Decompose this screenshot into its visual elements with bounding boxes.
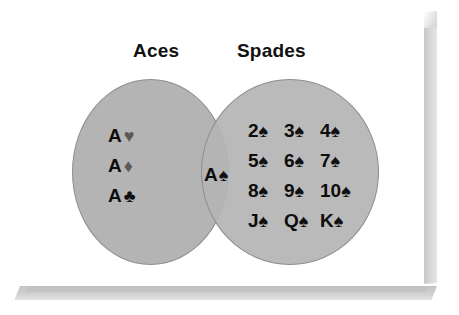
card-rank: 4	[320, 120, 331, 141]
card-A-spade-suit-icon: A♠	[204, 163, 228, 187]
card-3-spade-suit-icon: 3♠	[284, 116, 320, 146]
spade-suit-icon: ♠	[259, 147, 269, 176]
card-4-spade-suit-icon: 4♠	[320, 116, 356, 146]
card-rank: 6	[284, 150, 295, 171]
card-rank: 9	[284, 180, 295, 201]
card-J-spade-suit-icon: J♠	[248, 206, 284, 236]
card-rank: A	[204, 164, 218, 185]
region-aces-only: A♥A♦A♣	[108, 121, 136, 211]
card-6-spade-suit-icon: 6♠	[284, 146, 320, 176]
card-rank: 5	[248, 150, 259, 171]
region-spades-only: 2♠3♠4♠5♠6♠7♠8♠9♠10♠J♠Q♠K♠	[248, 116, 356, 236]
diamond-suit-icon: ♦	[124, 151, 133, 181]
venn-diagram-figure: Aces Spades A♥A♦A♣ A♠ 2♠3♠4♠5♠6♠7♠8♠9♠10…	[0, 0, 459, 315]
card-rank: 3	[284, 120, 295, 141]
card-rank: J	[248, 210, 259, 231]
card-5-spade-suit-icon: 5♠	[248, 146, 284, 176]
card-2-spade-suit-icon: 2♠	[248, 116, 284, 146]
card-K-spade-suit-icon: K♠	[320, 206, 356, 236]
card-10-spade-suit-icon: 10♠	[320, 176, 356, 206]
card-rank: K	[320, 210, 334, 231]
card-rank: A	[108, 185, 122, 206]
spade-suit-icon: ♠	[259, 177, 269, 206]
spade-suit-icon: ♠	[331, 117, 341, 146]
card-row: 2♠3♠4♠	[248, 116, 356, 146]
card-row: 5♠6♠7♠	[248, 146, 356, 176]
heart-suit-icon: ♥	[124, 121, 135, 151]
card-rank: 2	[248, 120, 259, 141]
spade-suit-icon: ♠	[295, 147, 305, 176]
card-row: A♥	[108, 121, 136, 151]
card-row: J♠Q♠K♠	[248, 206, 356, 236]
card-row: A♠	[204, 163, 228, 187]
card-rank: Q	[284, 210, 299, 231]
club-suit-icon: ♣	[124, 181, 136, 211]
card-rank: A	[108, 155, 122, 176]
spade-suit-icon: ♠	[295, 177, 305, 206]
card-A-diamond-suit-icon: A♦	[108, 151, 133, 181]
spade-suit-icon: ♠	[341, 177, 351, 206]
card-8-spade-suit-icon: 8♠	[248, 176, 284, 206]
spade-suit-icon: ♠	[295, 117, 305, 146]
spade-suit-icon: ♠	[219, 163, 229, 187]
card-Q-spade-suit-icon: Q♠	[284, 206, 320, 236]
card-row: A♦	[108, 151, 136, 181]
card-row: 8♠9♠10♠	[248, 176, 356, 206]
card-7-spade-suit-icon: 7♠	[320, 146, 356, 176]
spade-suit-icon: ♠	[259, 117, 269, 146]
venn-circles	[0, 0, 459, 315]
card-A-heart-suit-icon: A♥	[108, 121, 134, 151]
card-rank: 10	[320, 180, 341, 201]
card-rank: 7	[320, 150, 331, 171]
card-rank: A	[108, 125, 122, 146]
spade-suit-icon: ♠	[334, 207, 344, 236]
card-rank: 8	[248, 180, 259, 201]
spade-suit-icon: ♠	[331, 147, 341, 176]
card-A-club-suit-icon: A♣	[108, 181, 136, 211]
card-9-spade-suit-icon: 9♠	[284, 176, 320, 206]
spade-suit-icon: ♠	[259, 207, 269, 236]
card-row: A♣	[108, 181, 136, 211]
spade-suit-icon: ♠	[299, 207, 309, 236]
region-intersection: A♠	[204, 163, 228, 187]
